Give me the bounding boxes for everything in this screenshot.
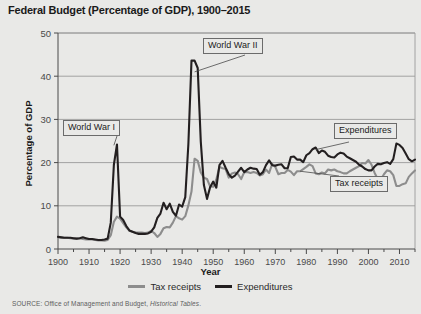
source-prefix: SOURCE: Office of Management and Budget,: [12, 300, 150, 307]
chart-legend: Tax receipts Expenditures: [0, 281, 421, 292]
legend-swatch-icon-expenditures: [215, 285, 232, 288]
svg-text:50: 50: [40, 28, 51, 39]
svg-text:0: 0: [46, 244, 51, 255]
svg-text:30: 30: [40, 114, 51, 125]
svg-text:1920: 1920: [110, 257, 130, 267]
svg-text:1910: 1910: [79, 257, 99, 267]
legend-label-tax-receipts: Tax receipts: [150, 281, 201, 292]
svg-text:1970: 1970: [265, 257, 285, 267]
svg-text:1940: 1940: [172, 257, 192, 267]
legend-item-expenditures: Expenditures: [215, 281, 292, 292]
legend-swatch-icon-tax-receipts: [128, 285, 145, 288]
y-axis-ticks: 01020304050: [40, 28, 58, 255]
svg-text:2000: 2000: [358, 257, 378, 267]
svg-text:20: 20: [40, 157, 51, 168]
legend-label-expenditures: Expenditures: [237, 281, 292, 292]
annotation-world-war-i: World War I: [63, 120, 120, 136]
series-line-expenditures: [58, 61, 415, 240]
svg-text:1960: 1960: [234, 257, 254, 267]
chart-figure: Federal Budget (Percentage of GDP), 1900…: [0, 0, 421, 314]
legend-item-tax-receipts: Tax receipts: [128, 281, 201, 292]
annotation-world-war-ii: World War II: [203, 38, 263, 54]
svg-text:40: 40: [40, 71, 51, 82]
source-title: Historical Tables: [150, 300, 199, 307]
svg-text:1950: 1950: [203, 257, 223, 267]
annotation-expenditures: Expenditures: [334, 123, 397, 139]
source-suffix: .: [199, 300, 201, 307]
svg-text:1980: 1980: [296, 257, 316, 267]
svg-text:10: 10: [40, 200, 51, 211]
annotation-tax-receipts: Tax receipts: [330, 176, 388, 192]
annotation-leader-lines: [114, 55, 349, 176]
svg-text:1990: 1990: [327, 257, 347, 267]
svg-text:2010: 2010: [389, 257, 409, 267]
svg-text:1900: 1900: [48, 257, 68, 267]
svg-text:1930: 1930: [141, 257, 161, 267]
x-axis-ticks: 1900191019201930194019501960197019801990…: [48, 249, 415, 267]
source-note: SOURCE: Office of Management and Budget,…: [12, 300, 201, 307]
